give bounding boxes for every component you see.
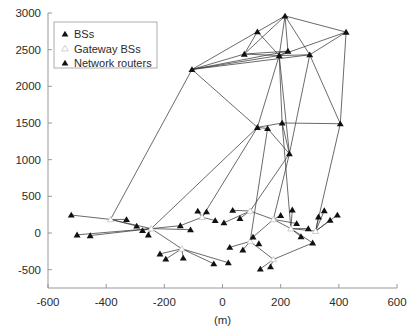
bs-node <box>255 240 262 246</box>
network-edge <box>279 16 285 56</box>
bs-node <box>277 212 284 218</box>
y-tick-label: 1000 <box>15 154 41 166</box>
network-edge <box>111 219 152 228</box>
network-edge <box>244 54 279 55</box>
bs-node <box>145 232 152 238</box>
router-node <box>282 13 289 19</box>
y-tick-label: -500 <box>18 264 41 276</box>
bs-node <box>321 207 328 213</box>
bs-node <box>177 222 184 228</box>
bs-node <box>267 263 274 269</box>
network-edge <box>192 69 257 127</box>
router-node <box>284 48 291 54</box>
network-edge <box>282 123 340 124</box>
network-edge <box>279 56 289 154</box>
network-edge <box>273 243 312 260</box>
y-tick-label: 0 <box>35 227 41 239</box>
x-tick-label: 0 <box>219 296 225 308</box>
network-edge <box>244 16 285 54</box>
bs-node <box>298 233 305 239</box>
legend[interactable]: BSsGateway BSsNetwork routers <box>54 22 157 69</box>
network-edge <box>71 215 110 219</box>
network-edge <box>192 54 244 69</box>
bs-node <box>162 256 169 262</box>
router-node <box>254 28 261 34</box>
bs-node <box>203 208 210 214</box>
network-edge <box>151 229 190 230</box>
legend-label-gateway: Gateway BSs <box>74 43 141 55</box>
network-edge <box>233 210 250 211</box>
network-edge <box>230 241 250 247</box>
x-axis-title: (m) <box>214 314 231 326</box>
bs-node <box>229 207 236 213</box>
network-edge <box>224 211 250 223</box>
network-edge <box>151 226 180 229</box>
network-edge <box>279 56 282 123</box>
plot-canvas: -500050010001500200025003000-600-400-200… <box>0 0 416 334</box>
bs-node <box>236 215 243 221</box>
network-edge <box>182 249 214 264</box>
network-edge <box>310 32 346 55</box>
network-edge <box>340 32 346 124</box>
y-tick-label: 1500 <box>15 117 41 129</box>
x-tick-label: -200 <box>153 296 176 308</box>
network-edge <box>192 51 288 69</box>
network-edge <box>180 217 202 225</box>
x-tick-label: 600 <box>387 296 406 308</box>
network-edge <box>273 154 289 220</box>
network-edge <box>257 56 279 128</box>
bs-node <box>315 214 322 220</box>
bs-node <box>334 212 341 218</box>
network-edge <box>289 55 309 154</box>
network-topology-figure: -500050010001500200025003000-600-400-200… <box>0 0 416 334</box>
bs-node <box>194 208 201 214</box>
x-tick-label: -600 <box>36 296 59 308</box>
legend-label-bs: BSs <box>74 28 95 40</box>
bs-node <box>257 266 264 272</box>
network-edge <box>250 129 267 242</box>
x-tick-label: -400 <box>95 296 118 308</box>
network-edge <box>257 123 282 127</box>
y-tick-label: 500 <box>22 190 41 202</box>
y-tick-label: 2000 <box>15 80 41 92</box>
network-edge <box>310 55 341 124</box>
bs-node <box>68 212 75 218</box>
bs-node <box>289 207 296 213</box>
bs-node <box>327 217 334 223</box>
network-edge <box>151 229 182 249</box>
network-edge <box>192 55 310 70</box>
y-tick-label: 2500 <box>15 44 41 56</box>
x-tick-label: 200 <box>271 296 290 308</box>
y-tick-label: 3000 <box>15 7 41 19</box>
router-node <box>306 52 313 58</box>
network-edge <box>285 16 288 51</box>
router-node <box>279 120 286 126</box>
bs-node <box>210 261 217 267</box>
network-edge <box>282 123 291 229</box>
network-edge <box>182 249 229 263</box>
bs-node <box>180 255 187 261</box>
gateway-bs-node <box>270 216 276 221</box>
x-tick-label: 400 <box>329 296 348 308</box>
network-edge <box>111 69 192 219</box>
legend-label-router: Network routers <box>74 57 152 69</box>
gateway-bs-node <box>270 256 276 261</box>
network-edge <box>192 56 279 70</box>
gateway-bs-node <box>179 246 185 251</box>
bs-node <box>220 219 227 225</box>
bs-node <box>309 240 316 246</box>
